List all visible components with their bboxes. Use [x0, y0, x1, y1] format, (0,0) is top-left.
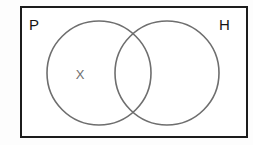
- set-circle-h: [115, 21, 219, 125]
- venn-circles-group: [20, 6, 248, 138]
- element-marker-x: X: [72, 67, 88, 83]
- set-label-p: P: [29, 17, 39, 32]
- venn-diagram-figure: P H X: [0, 0, 253, 145]
- set-label-h: H: [219, 17, 230, 32]
- set-circle-p: [47, 21, 151, 125]
